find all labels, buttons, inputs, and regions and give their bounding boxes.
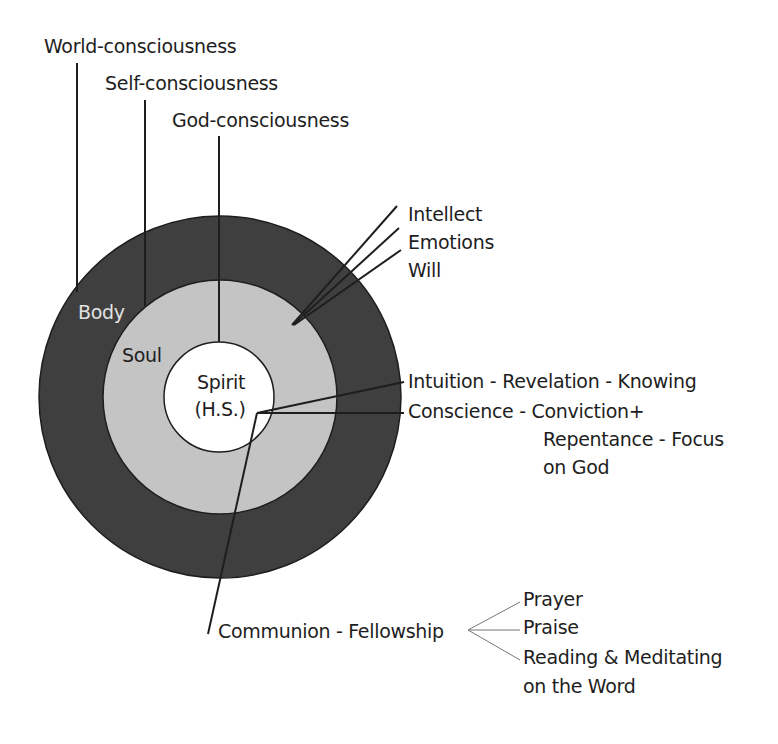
- reading-label: Reading & Meditating: [523, 646, 722, 668]
- world-consciousness-label: World-consciousness: [44, 35, 236, 57]
- prayer-branch-line: [468, 602, 520, 630]
- body-label: Body: [78, 301, 125, 323]
- god-consciousness-label: God-consciousness: [172, 109, 349, 131]
- communion-label: Communion - Fellowship: [218, 620, 444, 642]
- reading-label-2: on the Word: [523, 675, 635, 697]
- conscience-label-2: Repentance - Focus: [543, 428, 724, 450]
- spirit-core: [164, 342, 274, 452]
- self-consciousness-label: Self-consciousness: [105, 72, 278, 94]
- conscience-label: Conscience - Conviction+: [408, 400, 644, 422]
- spirit-label: Spirit: [186, 371, 256, 393]
- emotions-label: Emotions: [408, 231, 494, 253]
- spirit-hs-label: (H.S.): [184, 398, 256, 420]
- intellect-label: Intellect: [408, 203, 482, 225]
- soul-label: Soul: [122, 344, 162, 366]
- praise-label: Praise: [523, 616, 579, 638]
- conscience-label-3: on God: [543, 456, 609, 478]
- intuition-label: Intuition - Revelation - Knowing: [408, 370, 696, 392]
- prayer-label: Prayer: [523, 588, 583, 610]
- will-label: Will: [408, 259, 441, 281]
- reading-branch-line: [468, 630, 520, 660]
